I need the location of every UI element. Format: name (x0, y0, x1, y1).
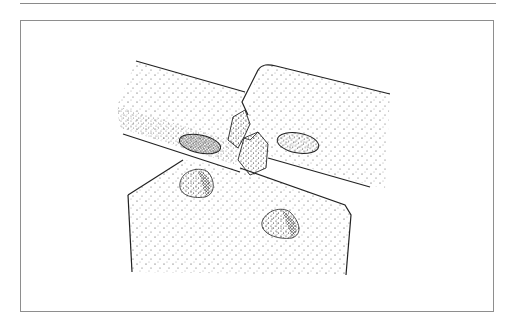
stone-joint-illustration (0, 0, 515, 333)
lower-block (128, 160, 351, 275)
right-beam (242, 65, 390, 189)
left-beam (117, 61, 248, 172)
